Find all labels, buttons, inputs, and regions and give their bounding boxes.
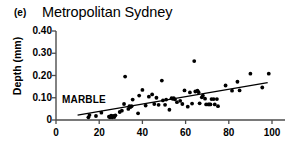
data-point [123,75,127,79]
data-point [198,101,202,105]
data-point [215,97,219,101]
data-point [137,94,141,98]
data-point [216,104,220,108]
data-point [155,96,159,100]
data-point [144,104,148,108]
data-point [188,91,192,95]
data-point [120,109,124,113]
data-point [209,103,213,107]
data-point [88,113,92,117]
chart-figure: (e) Metropolitan Sydney Depth (mm) 0 0.1… [0,0,287,156]
data-point [141,88,145,92]
data-point [130,104,134,108]
data-point [238,89,242,93]
data-point [212,97,216,101]
data-point [99,111,103,115]
data-point-group [87,59,271,119]
data-point [161,99,165,103]
data-point [180,102,184,106]
data-point [114,113,118,117]
data-point [178,99,182,103]
data-point [190,102,194,106]
data-point [192,59,196,63]
data-point [150,93,154,97]
data-point [197,90,201,94]
data-point [186,105,190,109]
data-point [168,108,172,112]
data-point [213,103,217,107]
data-point [152,102,156,106]
data-point [236,80,240,84]
data-point [163,103,167,107]
data-point [157,103,161,107]
data-point [136,111,140,115]
data-point [230,89,234,93]
data-point [203,97,207,101]
data-point [160,79,164,83]
data-point [175,100,179,104]
data-point [94,114,98,118]
data-point [249,72,253,76]
data-point [260,86,264,90]
data-point [267,72,271,76]
data-point [183,89,187,93]
data-point [164,98,168,102]
data-point [122,102,126,106]
scatter-plot-canvas [0,0,287,156]
data-point [201,94,205,98]
data-point [224,84,228,88]
data-point [131,98,135,102]
data-point [147,95,151,99]
